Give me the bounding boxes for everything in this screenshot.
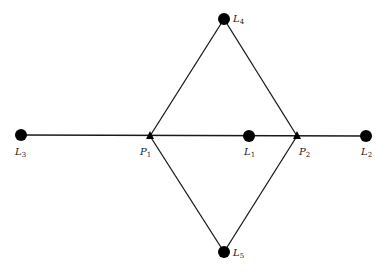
node-l2-dot-icon xyxy=(360,130,372,142)
node-label-subscript: 3 xyxy=(22,151,26,159)
node-label-l1: L1 xyxy=(243,146,255,159)
node-label-subscript: 2 xyxy=(306,151,310,159)
node-label-l2: L2 xyxy=(360,146,372,159)
edges-group xyxy=(21,19,366,252)
node-label-subscript: 1 xyxy=(147,151,151,159)
node-label-subscript: 5 xyxy=(240,252,244,260)
node-l5-dot-icon xyxy=(218,246,230,258)
edge-l3-l2 xyxy=(21,135,366,136)
edge-l4-p2 xyxy=(224,19,297,136)
network-diagram: L3P1L1P2L2L4L5 xyxy=(0,0,384,272)
node-label-subscript: 2 xyxy=(368,151,372,159)
node-label-l4: L4 xyxy=(232,13,245,26)
edge-l5-p2 xyxy=(224,136,297,252)
node-label-l5: L5 xyxy=(232,247,244,260)
node-l4-dot-icon xyxy=(218,13,230,25)
node-l1-dot-icon xyxy=(243,130,255,142)
node-label-subscript: 4 xyxy=(240,18,245,26)
edge-p1-l4 xyxy=(150,19,224,136)
edge-p1-l5 xyxy=(150,136,224,252)
node-l3-dot-icon xyxy=(15,129,27,141)
node-label-p1: P1 xyxy=(139,146,151,159)
node-label-subscript: 1 xyxy=(251,151,255,159)
node-label-p2: P2 xyxy=(298,146,310,159)
node-label-l3: L3 xyxy=(14,146,26,159)
